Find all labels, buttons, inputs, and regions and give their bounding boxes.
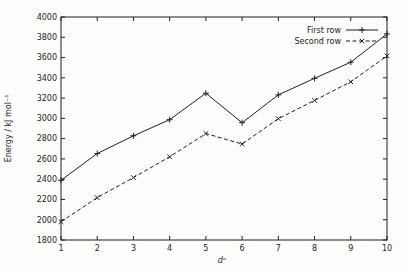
y-tick-label: 2200 — [37, 195, 57, 204]
y-axis: 1800200022002400260028003000320034003600… — [37, 13, 387, 245]
figure: 1234567891018002000220024002600280030003… — [0, 0, 410, 273]
y-axis-label: Energy / kJ mol⁻¹ — [4, 95, 13, 163]
x-tick-label: 8 — [312, 244, 317, 253]
legend-label: First row — [307, 26, 341, 35]
series-second-row — [59, 54, 390, 224]
y-tick-label: 3800 — [37, 33, 57, 42]
y-tick-label: 2600 — [37, 155, 57, 164]
x-axis-label: dⁿ — [218, 256, 226, 265]
y-tick-label: 2800 — [37, 134, 57, 143]
y-tick-label: 3200 — [37, 94, 57, 103]
x-axis: 12345678910 — [58, 17, 392, 253]
x-tick-label: 3 — [131, 244, 136, 253]
legend-label: Second row — [294, 37, 341, 46]
x-tick-label: 6 — [240, 244, 245, 253]
x-tick-label: 10 — [382, 244, 392, 253]
x-tick-label: 1 — [58, 244, 63, 253]
x-tick-label: 2 — [95, 244, 100, 253]
y-tick-label: 4000 — [37, 13, 57, 22]
x-tick-label: 9 — [348, 244, 353, 253]
y-tick-label: 2000 — [37, 216, 57, 225]
y-tick-label: 3600 — [37, 53, 57, 62]
x-tick-label: 4 — [167, 244, 172, 253]
y-tick-label: 3400 — [37, 74, 57, 83]
plot-border — [61, 17, 387, 240]
x-tick-label: 7 — [276, 244, 281, 253]
energy-chart: 1234567891018002000220024002600280030003… — [0, 0, 410, 273]
y-tick-label: 3000 — [37, 114, 57, 123]
y-tick-label: 2400 — [37, 175, 57, 184]
series-line — [61, 56, 387, 222]
x-tick-label: 5 — [203, 244, 208, 253]
series-line — [61, 34, 387, 180]
legend: First rowSecond row — [294, 26, 378, 46]
series-first-row — [58, 31, 390, 183]
y-tick-label: 1800 — [37, 236, 57, 245]
